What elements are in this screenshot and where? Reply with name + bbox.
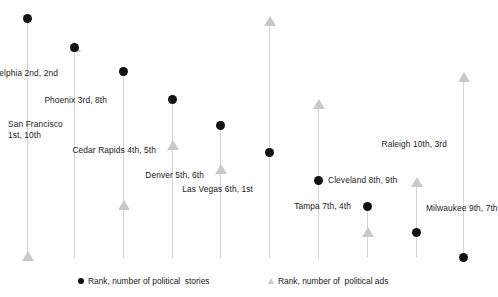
point-label-las-vegas: Las Vegas 6th, 1st: [182, 184, 253, 195]
drop-line-las-vegas: [269, 19, 270, 258]
stories-marker-cedar-rapids[interactable]: [168, 95, 177, 104]
point-label-cleveland: Cleveland 8th, 9th: [328, 175, 397, 186]
stories-marker-philadelphia[interactable]: [70, 43, 79, 52]
drop-line-milwaukee: [416, 180, 417, 258]
ads-marker-las-vegas[interactable]: [264, 16, 276, 26]
point-label-san-francisco: San Francisco 1st, 10th: [8, 119, 63, 141]
ads-marker-san-francisco[interactable]: [22, 251, 34, 261]
ads-marker-cleveland[interactable]: [313, 99, 325, 109]
ads-marker-milwaukee[interactable]: [411, 177, 423, 187]
point-label-milwaukee: Milwaukee 9th, 7th: [426, 203, 498, 214]
point-label-raleigh: Raleigh 10th, 3rd: [382, 139, 448, 150]
point-label-tampa: Tampa 7th, 4th: [294, 201, 351, 212]
drop-line-phoenix: [123, 71, 124, 258]
ads-marker-cedar-rapids[interactable]: [167, 140, 179, 150]
stories-marker-milwaukee[interactable]: [412, 228, 421, 237]
stories-marker-tampa[interactable]: [363, 202, 372, 211]
legend-entry-stories[interactable]: Rank, number of political stories: [78, 276, 210, 286]
ads-marker-denver[interactable]: [215, 164, 227, 174]
point-label-philadelphia: Philadelphia 2nd, 2nd: [0, 68, 58, 79]
circle-icon: [78, 278, 84, 284]
stories-marker-phoenix[interactable]: [119, 67, 128, 76]
stories-marker-las-vegas[interactable]: [265, 148, 274, 157]
triangle-icon: [268, 278, 274, 284]
point-label-phoenix: Phoenix 3rd, 8th: [44, 95, 107, 106]
point-label-cedar-rapids: Cedar Rapids 4th, 5th: [72, 145, 156, 156]
ads-marker-tampa[interactable]: [362, 227, 374, 237]
point-label-denver: Denver 5th, 6th: [145, 170, 204, 181]
ads-marker-phoenix[interactable]: [118, 200, 130, 210]
stories-marker-san-francisco[interactable]: [23, 14, 32, 23]
stories-marker-denver[interactable]: [216, 121, 225, 130]
legend-label: Rank, number of political ads: [278, 276, 388, 286]
ads-marker-raleigh[interactable]: [458, 72, 470, 82]
legend-label: Rank, number of political stories: [88, 276, 210, 286]
stories-marker-raleigh[interactable]: [459, 253, 468, 262]
legend-entry-ads[interactable]: Rank, number of political ads: [268, 276, 388, 286]
chart-legend: Rank, number of political storiesRank, n…: [0, 272, 488, 292]
drop-line-raleigh: [463, 75, 464, 258]
stories-marker-cleveland[interactable]: [314, 176, 323, 185]
